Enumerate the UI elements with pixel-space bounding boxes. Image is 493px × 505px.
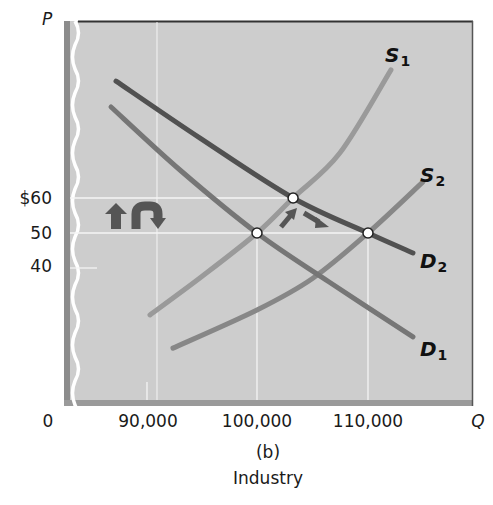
y-axis-bar <box>64 21 70 406</box>
y-tick-40: 40 <box>2 256 52 276</box>
curve-label-s2: S2 <box>420 164 445 192</box>
x-tick-90000: 90,000 <box>118 411 177 431</box>
figure: P Q $60 50 40 0 90,000 100,000 110,000 S… <box>0 0 493 505</box>
equilibrium-point-1 <box>288 193 298 203</box>
y-tick-60: $60 <box>2 188 52 208</box>
x-axis-bar <box>64 400 473 406</box>
y-axis-name: P <box>42 9 52 29</box>
curve-label-d2: D2 <box>420 250 447 278</box>
panel-label: (b) <box>256 442 280 462</box>
equilibrium-point-2 <box>363 228 373 238</box>
x-tick-110000: 110,000 <box>333 411 403 431</box>
figure-caption: Industry <box>233 468 303 488</box>
y-tick-50: 50 <box>2 223 52 243</box>
x-tick-100000: 100,000 <box>222 411 292 431</box>
equilibrium-point-0 <box>252 228 262 238</box>
x-axis-name: Q <box>471 411 484 431</box>
x-tick-origin: 0 <box>43 411 54 431</box>
curve-label-s1: S1 <box>385 44 410 72</box>
curve-label-d1: D1 <box>420 338 447 366</box>
